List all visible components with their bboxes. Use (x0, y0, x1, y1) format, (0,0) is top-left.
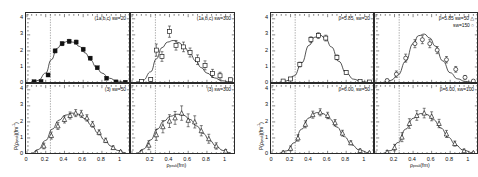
data-point-open-square (174, 43, 178, 47)
data-point-triangle (400, 135, 404, 139)
data-point-triangle (437, 121, 441, 125)
y-tick-label: 3 (261, 30, 268, 36)
x-tick-label: 0.6 (181, 156, 193, 162)
data-point-triangle (179, 111, 183, 115)
data-point-triangle (90, 122, 94, 126)
x-tick-label: 0.4 (57, 156, 69, 162)
data-point-open-square (289, 77, 293, 81)
plot-panel-right-top-left: β=5.85, sw=20 (270, 12, 374, 83)
x-tick-label: 0.8 (443, 156, 455, 162)
data-point-triangle (97, 130, 101, 134)
data-point-filled-square (81, 47, 85, 51)
fit-curve (279, 113, 369, 154)
data-point-open-square (149, 77, 153, 81)
data-point-open-circle (385, 79, 389, 83)
data-point-triangle (385, 150, 389, 154)
data-series (385, 36, 475, 83)
x-tick-label: 0.6 (425, 156, 437, 162)
data-point-open-square (154, 48, 158, 52)
data-point-open-circle (394, 72, 398, 76)
data-point-triangle (79, 111, 83, 115)
x-tick-label: 0.4 (302, 156, 314, 162)
data-point-open-circle (404, 56, 408, 60)
data-point-filled-square (67, 39, 71, 43)
data-point-filled-square (95, 66, 99, 70)
plot-canvas (375, 84, 478, 154)
data-point-triangle (296, 136, 300, 140)
x-tick-label: 0.6 (321, 156, 333, 162)
y-tick-label: 0 (261, 79, 268, 85)
x-tick-label: 0.2 (144, 156, 156, 162)
data-point-open-square (309, 38, 313, 42)
fit-curve (383, 114, 473, 154)
data-point-open-square (203, 63, 207, 67)
data-point-open-square (188, 51, 192, 55)
data-point-open-circle (435, 48, 439, 52)
y-tick-label: 1 (261, 134, 268, 140)
plot-panel-left-bottom-left: (3) sw=50 (25, 83, 130, 154)
data-point-triangle (407, 121, 411, 125)
data-point-open-square (211, 71, 215, 75)
data-point-open-square (316, 34, 320, 38)
x-tick-label: 1 (219, 156, 231, 162)
figure-root: P(ρpeak)(fm-1) ρpeak(fm) (1a,b,c) sw=200… (0, 0, 478, 177)
panel-label-right-top-left: β=5.85, sw=20 (338, 16, 370, 23)
y-tick-label: 3 (261, 101, 268, 107)
plot-panel-right-top-right: β=5.85 sw=50 △sw=150 ○ (374, 12, 478, 83)
panel-label-right-bottom-left: β=6.00, sw=50 (338, 87, 370, 94)
x-tick-label: 0.4 (406, 156, 418, 162)
data-point-triangle (333, 120, 337, 124)
x-tick-label: 0.2 (284, 156, 296, 162)
y-tick-label: 2 (16, 118, 23, 124)
data-series (281, 109, 372, 154)
panel-label-right-bottom-right: β=6.00, sw=100 (440, 87, 474, 94)
y-tick-label: 0 (16, 79, 23, 85)
data-point-open-square (218, 74, 222, 78)
panel-label-left-bottom-left: (3) sw=50 (105, 87, 126, 94)
data-point-triangle (111, 145, 115, 149)
axis-ticks (376, 85, 478, 154)
data-point-open-square (298, 63, 302, 67)
data-point-open-square (228, 78, 232, 82)
data-point-triangle (73, 111, 77, 115)
fit-curve (32, 41, 126, 82)
data-point-triangle (318, 110, 322, 114)
data-point-open-square (167, 30, 171, 34)
y-tick-label: 2 (16, 47, 23, 53)
right-x-axis-label: ρpeak(fm) (410, 162, 430, 168)
data-point-open-square (344, 71, 348, 75)
data-series (139, 106, 228, 154)
x-tick-label: 0.2 (388, 156, 400, 162)
y-tick-label: 1 (16, 63, 23, 69)
x-tick-label: 0 (20, 156, 32, 162)
plot-panel-left-top-left: (1a,b,c) sw=20 (25, 12, 130, 83)
plot-panel-left-bottom-right: (3) sw=300 (130, 83, 235, 154)
y-tick-label: 2 (261, 118, 268, 124)
plot-canvas (271, 84, 374, 154)
data-point-triangle (429, 114, 433, 118)
data-point-filled-square (60, 42, 64, 46)
data-point-triangle (118, 149, 122, 153)
data-point-triangle (415, 113, 419, 117)
plot-canvas (26, 13, 130, 83)
y-tick-label: 3 (16, 30, 23, 36)
panel-label-left-top-left: (1a,b,c) sw=20 (94, 16, 126, 23)
right-figure: P(ρpeak)(fm-1) ρpeak(fm) β=5.85, sw=2001… (244, 0, 478, 177)
data-point-triangle (186, 118, 190, 122)
y-tick-label: 2 (261, 47, 268, 53)
y-tick-label: 3 (16, 101, 23, 107)
x-tick-label: 0.8 (339, 156, 351, 162)
data-point-open-circle (413, 42, 417, 46)
data-point-open-square (324, 36, 328, 40)
data-point-triangle (288, 146, 292, 150)
data-point-open-circle (454, 67, 458, 71)
data-point-triangle (281, 150, 285, 154)
x-tick-label: 0 (265, 156, 277, 162)
y-tick-label: 4 (16, 14, 23, 20)
x-tick-label: 1 (462, 156, 474, 162)
x-tick-label: 1 (114, 156, 126, 162)
data-point-triangle (471, 150, 475, 154)
y-tick-label: 4 (261, 85, 268, 91)
data-point-filled-square (105, 76, 109, 80)
data-series (32, 39, 127, 83)
